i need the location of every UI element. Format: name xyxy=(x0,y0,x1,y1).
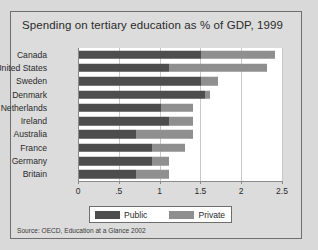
bar-segment-public xyxy=(79,157,152,166)
page-title: Spending on tertiary education as % of G… xyxy=(22,19,283,31)
category-label: Britain xyxy=(23,169,47,179)
chart-legend: Public Private xyxy=(89,206,232,223)
legend-label-private: Private xyxy=(198,210,225,220)
bar-segment-private xyxy=(161,104,194,113)
bar-segment-public xyxy=(79,170,136,179)
chart-row: Sweden xyxy=(11,75,301,88)
category-label: Germany xyxy=(12,156,47,166)
x-axis-line xyxy=(78,181,283,182)
x-tick-label: 1.5 xyxy=(194,186,206,196)
x-tick-label: .5 xyxy=(115,186,122,196)
stacked-bar xyxy=(79,90,210,99)
chart-row: Canada xyxy=(11,48,301,61)
x-tick-mark xyxy=(200,181,201,184)
chart-card: Spending on tertiary education as % of G… xyxy=(10,11,302,239)
category-label: Ireland xyxy=(21,116,47,126)
category-label: France xyxy=(20,143,47,153)
bar-segment-public xyxy=(79,90,205,99)
bar-segment-public xyxy=(79,64,169,73)
stacked-bar xyxy=(79,64,267,73)
bar-segment-public xyxy=(79,117,169,126)
x-tick-label: 0 xyxy=(76,186,81,196)
bar-segment-public xyxy=(79,143,152,152)
category-label: Denmark xyxy=(12,90,47,100)
stacked-bar xyxy=(79,77,218,86)
stacked-bar xyxy=(79,104,193,113)
bar-segment-private xyxy=(136,130,193,139)
category-label: Australia xyxy=(14,129,47,139)
chart-row: Germany xyxy=(11,154,301,167)
bar-segment-public xyxy=(79,77,201,86)
chart-row: Denmark xyxy=(11,88,301,101)
x-tick-label: 1 xyxy=(157,186,162,196)
x-tick-mark xyxy=(241,181,242,184)
stacked-bar xyxy=(79,170,169,179)
bar-segment-private xyxy=(205,90,209,99)
stacked-bar xyxy=(79,50,275,59)
x-tick-mark xyxy=(282,181,283,184)
category-label: Canada xyxy=(17,50,47,60)
bar-segment-public xyxy=(79,104,161,113)
chart-row: Netherlands xyxy=(11,101,301,114)
legend-swatch-private-icon xyxy=(169,211,194,219)
bar-segment-private xyxy=(136,170,169,179)
legend-swatch-public-icon xyxy=(95,211,120,219)
x-tick-label: 2 xyxy=(239,186,244,196)
stacked-bar xyxy=(79,143,185,152)
bar-segment-public xyxy=(79,130,136,139)
chart-row: Britain xyxy=(11,168,301,181)
category-label: United States xyxy=(0,63,47,73)
source-note: Source: OECD, Education at a Glance 2002 xyxy=(17,227,146,234)
bar-segment-private xyxy=(152,143,185,152)
legend-label-public: Public xyxy=(124,210,147,220)
bar-segment-private xyxy=(152,157,168,166)
bar-segment-private xyxy=(169,117,193,126)
stacked-bar xyxy=(79,117,193,126)
chart-row: France xyxy=(11,141,301,154)
x-tick-mark xyxy=(160,181,161,184)
chart-row: Australia xyxy=(11,128,301,141)
x-tick-label: 2.5 xyxy=(276,186,288,196)
x-tick-mark xyxy=(119,181,120,184)
bar-segment-private xyxy=(201,77,217,86)
stacked-bar xyxy=(79,130,193,139)
chart-row: United States xyxy=(11,61,301,74)
bar-segment-private xyxy=(169,64,267,73)
category-label: Sweden xyxy=(16,76,47,86)
stacked-bar xyxy=(79,157,169,166)
x-tick-mark xyxy=(78,181,79,184)
bar-segment-public xyxy=(79,50,201,59)
chart-row: Ireland xyxy=(11,115,301,128)
bar-segment-private xyxy=(201,50,274,59)
category-label: Netherlands xyxy=(1,103,47,113)
